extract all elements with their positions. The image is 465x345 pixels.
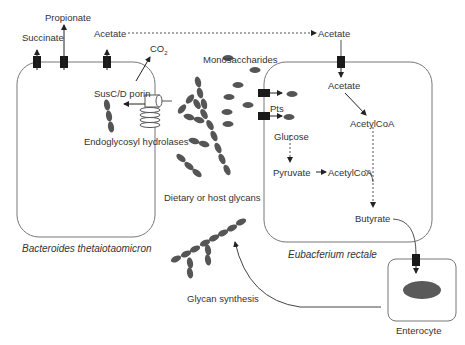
label-acetate-left: Acetate [94,29,126,39]
co2-text: CO [150,43,164,54]
synthesized-glycan [170,217,248,279]
label-pts: Pts [270,104,284,114]
label-succinate: Succinate [22,33,64,43]
label-co2: CO2 [150,44,168,56]
label-butyrate: Butyrate [355,214,390,224]
label-pyruvate: Pyruvate [273,168,311,178]
label-glycan-synthesis: Glycan synthesis [187,294,259,304]
label-glucose: Glucose [274,132,309,142]
label-eubacterium: Eubacferium rectale [288,250,377,260]
label-propionate: Propionate [45,13,91,23]
label-acetate-inside: Acetate [328,81,360,91]
label-susc-porin: SusC/D porin [94,89,151,99]
transporter-succinate [33,50,41,70]
enterocyte-nucleus [403,281,441,299]
transporter-acetate-left [103,50,111,70]
transporter-acetate-right [337,40,345,77]
label-monosaccharides: Monosaccharides [203,55,277,65]
label-bacteroides: Bacteroides thetaiotaomicron [22,244,152,254]
label-dietary-glycans: Dietary or host glycans [164,193,261,203]
label-endoglycosyl: Endoglycosyl hydrolases [84,137,189,147]
label-acetylcoa-2: AcetylCoA [328,168,372,178]
co2-subscript: 2 [164,50,167,56]
label-acetylcoa-1: AcetylCoA [350,119,394,129]
glycan-inside-left [103,99,115,133]
label-enterocyte: Enterocyte [396,326,441,336]
dietary-glycans [175,76,232,179]
susc-porin-icon [124,95,172,128]
label-acetate-right: Acetate [318,29,350,39]
